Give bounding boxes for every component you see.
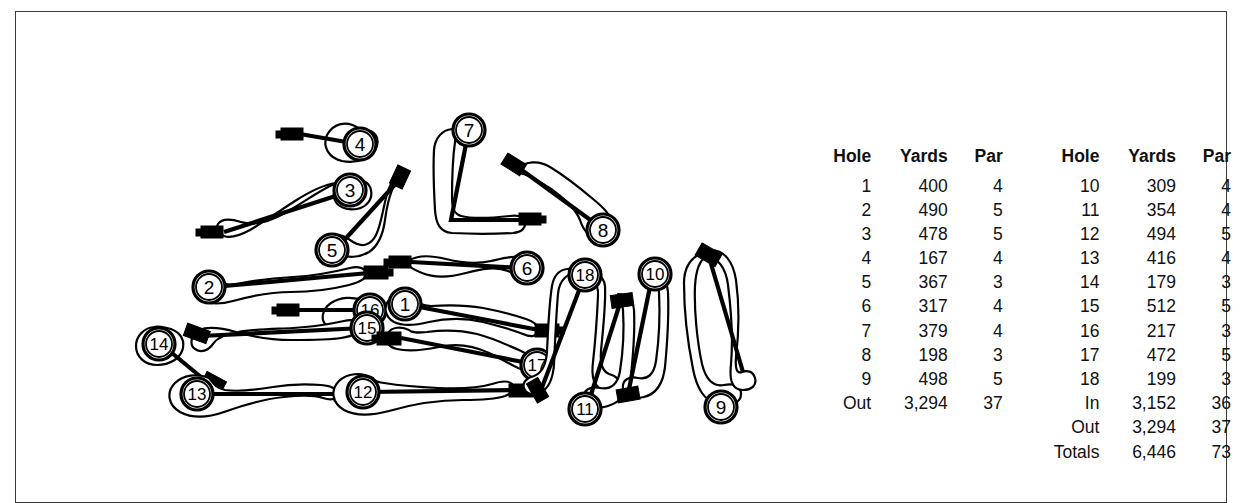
gap-cell	[1003, 416, 1038, 440]
front-par-cell: 3	[948, 344, 1003, 368]
front-hole-cell: 2	[811, 198, 871, 222]
back-in-par: 36	[1176, 392, 1231, 416]
front-par-cell: 3	[948, 271, 1003, 295]
gap-cell	[1003, 368, 1038, 392]
hole-14-number: 14	[150, 335, 169, 354]
back-par-header: Par	[1176, 145, 1231, 174]
front-hole-header: Hole	[811, 145, 871, 174]
hole-7-tee	[519, 213, 546, 225]
front-yards-cell: 167	[871, 247, 948, 271]
back-yards-cell: 309	[1099, 174, 1176, 198]
hole-11-number: 11	[576, 400, 594, 419]
front-out-yards: 3,294	[871, 392, 948, 416]
gap-cell	[1003, 319, 1038, 343]
table-row: 5 367 3 14 179 3	[811, 271, 1231, 295]
hole-3-group: 3	[196, 174, 371, 238]
scorecard-table: Hole Yards Par Hole Yards Par 1 400 4 10…	[811, 145, 1231, 464]
table-row: 1 400 4 10 309 4	[811, 174, 1231, 198]
table-row: 6 317 4 15 512 5	[811, 295, 1231, 319]
front-par-cell: 4	[948, 247, 1003, 271]
back-yards-cell: 416	[1099, 247, 1176, 271]
empty-cell	[948, 440, 1003, 464]
back-par-cell: 3	[1176, 319, 1231, 343]
hole-9-group: 9	[684, 243, 755, 423]
hole-13-number: 13	[188, 385, 207, 404]
hole-7-number: 7	[464, 120, 475, 141]
summary-row-totals: Totals 6,446 73	[811, 440, 1231, 464]
back-par-cell: 4	[1176, 174, 1231, 198]
hole-7-green: 7	[453, 114, 485, 146]
front-par-cell: 4	[948, 174, 1003, 198]
course-map-svg: .fw { fill:#ffffff; stroke:#000000; stro…	[121, 72, 821, 462]
scorecard: Hole Yards Par Hole Yards Par 1 400 4 10…	[811, 145, 1231, 455]
back-out-label: Out	[1038, 416, 1100, 440]
front-yards-header: Yards	[871, 145, 948, 174]
gap-cell	[1003, 223, 1038, 247]
hole-12-number: 12	[354, 383, 373, 402]
back-par-cell: 4	[1176, 198, 1231, 222]
summary-row-out-in: Out 3,294 37 In 3,152 36	[811, 392, 1231, 416]
front-yards-cell: 198	[871, 344, 948, 368]
back-yards-cell: 217	[1099, 319, 1176, 343]
hole-14-green: 14	[143, 328, 175, 360]
hole-5-green: 5	[316, 234, 348, 266]
back-yards-header: Yards	[1099, 145, 1176, 174]
front-par-cell: 5	[948, 223, 1003, 247]
hole-6-green: 6	[511, 252, 543, 284]
hole-9-number: 9	[716, 397, 727, 418]
back-hole-cell: 15	[1038, 295, 1100, 319]
back-out-yards: 3,294	[1099, 416, 1176, 440]
hole-3-tee	[196, 226, 223, 238]
totals-label: Totals	[1038, 440, 1100, 464]
hole-15-group: 15	[183, 312, 383, 351]
hole-2-green: 2	[193, 271, 225, 303]
front-out-label: Out	[811, 392, 871, 416]
front-par-cell: 4	[948, 319, 1003, 343]
hole-3-green: 3	[334, 174, 366, 206]
hole-4-number: 4	[355, 134, 366, 155]
back-yards-cell: 472	[1099, 344, 1176, 368]
gap-cell	[1003, 295, 1038, 319]
back-par-cell: 5	[1176, 295, 1231, 319]
hole-6-group: 6	[384, 252, 543, 284]
front-yards-cell: 317	[871, 295, 948, 319]
back-hole-cell: 16	[1038, 319, 1100, 343]
hole-5-number: 5	[327, 240, 338, 261]
hole-1-group: 1	[386, 288, 564, 337]
hole-9-green: 9	[705, 391, 737, 423]
back-par-cell: 3	[1176, 271, 1231, 295]
totals-yards: 6,446	[1099, 440, 1176, 464]
back-par-cell: 3	[1176, 368, 1231, 392]
front-out-par: 37	[948, 392, 1003, 416]
totals-par: 73	[1176, 440, 1231, 464]
back-yards-cell: 494	[1099, 223, 1176, 247]
front-hole-cell: 1	[811, 174, 871, 198]
hole-18-green: 18	[569, 259, 601, 291]
back-hole-cell: 17	[1038, 344, 1100, 368]
hole-1-green: 1	[389, 288, 421, 320]
gap-cell	[1003, 440, 1038, 464]
front-hole-cell: 6	[811, 295, 871, 319]
back-hole-cell: 11	[1038, 198, 1100, 222]
back-hole-cell: 10	[1038, 174, 1100, 198]
front-hole-cell: 4	[811, 247, 871, 271]
gap-cell	[1003, 198, 1038, 222]
back-yards-cell: 199	[1099, 368, 1176, 392]
hole-11-green: 11	[569, 393, 601, 425]
table-row: 2 490 5 11 354 4	[811, 198, 1231, 222]
hole-18-number: 18	[576, 266, 595, 285]
empty-cell	[871, 440, 948, 464]
front-par-header: Par	[948, 145, 1003, 174]
empty-cell	[811, 416, 871, 440]
back-yards-cell: 354	[1099, 198, 1176, 222]
gap-cell	[1003, 392, 1038, 416]
back-in-label: In	[1038, 392, 1100, 416]
gap-cell	[1003, 271, 1038, 295]
hole-10-number: 10	[646, 265, 665, 284]
front-hole-cell: 7	[811, 319, 871, 343]
empty-cell	[948, 416, 1003, 440]
table-row: 9 498 5 18 199 3	[811, 368, 1231, 392]
hole-11-tee	[610, 293, 634, 309]
back-hole-cell: 12	[1038, 223, 1100, 247]
front-yards-cell: 498	[871, 368, 948, 392]
